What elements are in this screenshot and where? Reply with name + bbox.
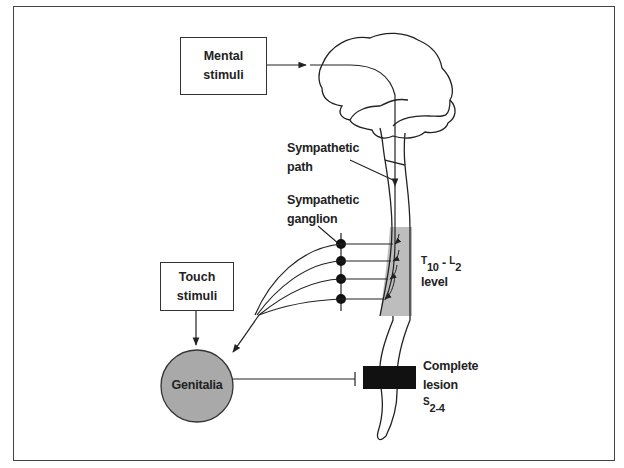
genitalia-label: Genitalia xyxy=(166,376,228,395)
complete-lesion-label: Complete lesion S2-4 xyxy=(423,357,478,414)
diagram-canvas xyxy=(0,0,624,468)
mental-stimuli-box: Mental stimuli xyxy=(180,37,267,95)
inhibitory-line xyxy=(233,372,355,386)
mental-stimuli-line2: stimuli xyxy=(203,66,243,85)
touch-stimuli-box: Touch stimuli xyxy=(160,262,234,311)
sympathetic-path-line xyxy=(267,65,395,300)
touch-stimuli-line2: stimuli xyxy=(177,287,217,306)
touch-stimuli-line1: Touch xyxy=(179,268,216,287)
t10-l2-shaded-region xyxy=(380,227,412,316)
ganglion-to-genitalia-curves xyxy=(233,244,341,352)
mental-stimuli-line1: Mental xyxy=(204,47,244,66)
t10-l2-level-label: T10 - L2 level xyxy=(421,254,461,292)
complete-lesion-block xyxy=(363,366,416,389)
sympathetic-ganglion-label: Sympathetic ganglion xyxy=(287,191,359,229)
sympathetic-path-label: Sympathetic path xyxy=(287,139,359,177)
